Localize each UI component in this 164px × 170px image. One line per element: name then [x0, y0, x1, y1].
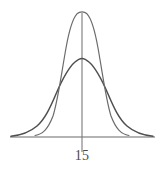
mean-axis-label: 15: [0, 148, 164, 164]
distribution-curves-svg: [0, 0, 164, 170]
distribution-figure: 15: [0, 0, 164, 170]
